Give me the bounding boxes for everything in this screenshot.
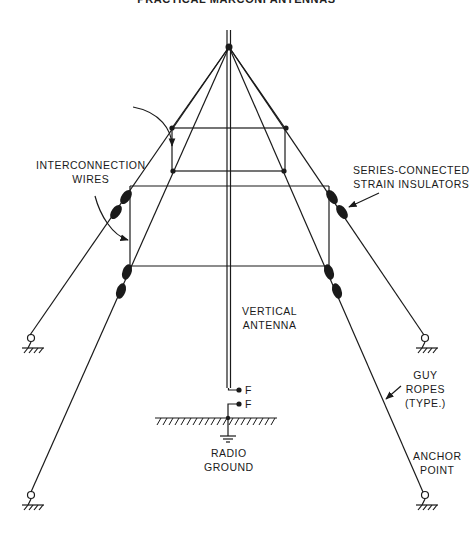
apex-junction	[226, 44, 233, 51]
earth-ground-icon	[220, 418, 236, 442]
feed-terminal	[236, 387, 241, 392]
label-vertical-antenna: VERTICAL ANTENNA	[242, 304, 297, 332]
anchor-point-icon	[416, 492, 438, 511]
label-anchor-point: ANCHOR POINT	[413, 449, 462, 477]
guy-wire	[229, 47, 424, 335]
insulators	[108, 44, 351, 421]
label-guy-ropes: GUY ROPES (TYPE.)	[405, 368, 446, 410]
anchor-point-icon	[416, 335, 438, 354]
interconnection-arrow-upper	[133, 107, 172, 146]
label-radio-ground: RADIO GROUND	[204, 446, 254, 474]
label-interconnection-wires: INTERCONNECTION WIRES	[36, 158, 146, 186]
anchor-point-icon	[22, 492, 44, 511]
strain-insulator	[114, 282, 128, 300]
label-strain-insulators: SERIES-CONNECTED STRAIN INSULATORS	[353, 163, 470, 191]
guy-rope-arrow	[386, 386, 401, 399]
anchor-point-icon	[22, 335, 44, 354]
feed-terminal	[236, 401, 241, 406]
label-feed-top: F	[245, 383, 252, 397]
ground-hatching	[157, 418, 275, 425]
insulator-arrow	[349, 193, 379, 207]
label-feed-bottom: F	[245, 397, 252, 411]
top-interconnection-box	[172, 128, 285, 171]
